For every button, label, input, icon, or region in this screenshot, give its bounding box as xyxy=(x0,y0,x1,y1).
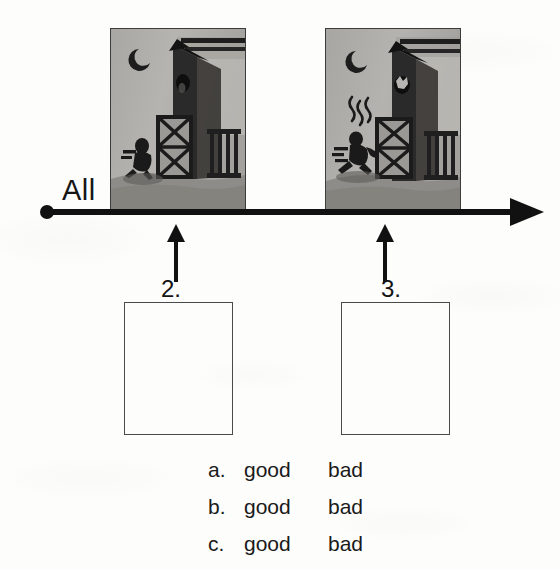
axis-line xyxy=(46,209,516,215)
pointer-arrow-up-icon-2 xyxy=(163,224,189,282)
scene-illustration-3 xyxy=(326,29,460,213)
worksheet-page: All 2. 3. a. good bad b. good bad c. g xyxy=(0,0,560,569)
answer-box-2[interactable] xyxy=(124,302,233,435)
rating-choice-bad-a[interactable]: bad xyxy=(328,458,388,482)
rating-letter-c: c. xyxy=(208,532,244,556)
axis-arrowhead-icon xyxy=(510,198,544,226)
pointer-arrow-up-icon-3 xyxy=(372,224,398,282)
axis-start-label: All xyxy=(62,176,96,205)
scene-panel-night-barn-crouching-figure xyxy=(110,28,246,214)
rating-row-b: b. good bad xyxy=(0,495,560,532)
rating-choice-good-b[interactable]: good xyxy=(244,495,328,519)
rating-choice-bad-b[interactable]: bad xyxy=(328,495,388,519)
rating-choice-bad-c[interactable]: bad xyxy=(328,532,388,556)
answer-box-3[interactable] xyxy=(341,302,450,435)
rating-choice-good-c[interactable]: good xyxy=(244,532,328,556)
timeline-axis xyxy=(40,205,545,218)
rating-choice-good-a[interactable]: good xyxy=(244,458,328,482)
scene-illustration-2 xyxy=(111,29,245,213)
rating-row-a: a. good bad xyxy=(0,458,560,495)
rating-letter-b: b. xyxy=(208,495,244,519)
step-number-2: 2. xyxy=(161,277,181,301)
rating-row-c: c. good bad xyxy=(0,532,560,569)
step-number-3: 3. xyxy=(381,277,401,301)
scene-panel-night-barn-running-figure-smoke xyxy=(325,28,461,214)
barn-window xyxy=(394,76,410,94)
rating-letter-a: a. xyxy=(208,458,244,482)
rating-options-list: a. good bad b. good bad c. good bad xyxy=(0,458,560,569)
